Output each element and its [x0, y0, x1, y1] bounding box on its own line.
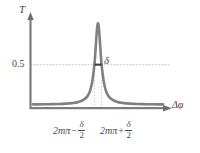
- x-tick-left-denominator: 2: [78, 131, 85, 140]
- x-tick-right-fraction: δ 2: [125, 120, 132, 141]
- figure-container: T 0.5 δ Δφ 2mπ− δ 2 2mπ+ δ 2: [0, 0, 200, 153]
- x-tick-right-numerator: δ: [125, 120, 132, 129]
- x-tick-right-base: 2mπ: [100, 125, 117, 136]
- y-axis-label: T: [19, 4, 25, 15]
- x-tick-left-numerator: δ: [78, 120, 85, 129]
- x-tick-label-right: 2mπ+ δ 2: [100, 120, 132, 141]
- x-tick-left-base: 2mπ: [53, 125, 70, 136]
- x-tick-right-denominator: 2: [125, 131, 132, 140]
- y-axis-arrow: [27, 12, 33, 20]
- x-tick-left-fraction: δ 2: [78, 120, 85, 141]
- y-tick-label-half: 0.5: [12, 59, 25, 69]
- fwhm-delta-label: δ: [104, 55, 109, 66]
- x-tick-label-left: 2mπ− δ 2: [53, 120, 85, 141]
- x-axis-arrow: [163, 105, 172, 112]
- x-tick-left-operator: −: [70, 125, 78, 136]
- x-axis-label: Δφ: [172, 100, 183, 110]
- x-tick-right-operator: +: [117, 125, 125, 136]
